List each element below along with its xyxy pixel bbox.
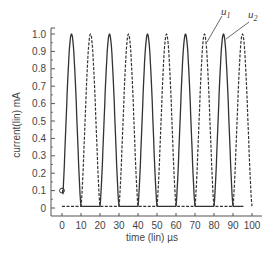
y-tick-label: 0.6 [32, 98, 46, 109]
x-tick-label: 0 [59, 220, 65, 231]
x-tick-label: 30 [113, 220, 125, 231]
x-tick-label: 60 [170, 220, 182, 231]
y-tick-label: 0.1 [32, 185, 46, 196]
x-tick-label: 70 [189, 220, 201, 231]
y-tick-label: 0.8 [32, 63, 46, 74]
u2-leader-line [226, 22, 249, 39]
x-tick-label: 90 [227, 220, 239, 231]
x-axis: 0102030405060708090100 [51, 213, 262, 231]
line-chart: 00.10.20.30.40.50.60.70.80.91.0 01020304… [0, 0, 277, 253]
x-tick-label: 40 [132, 220, 144, 231]
y-tick-label: 0.5 [32, 116, 46, 127]
x-tick-label: 10 [75, 220, 87, 231]
y-tick-label: 0 [40, 203, 46, 214]
plot-area [60, 34, 252, 206]
x-tick-label: 80 [208, 220, 220, 231]
series-u1-line [62, 34, 252, 206]
y-tick-label: 0.4 [32, 133, 46, 144]
y-tick-label: 0.2 [32, 168, 46, 179]
y-tick-label: 0.7 [32, 81, 46, 92]
y-axis-title: current(lin) mA [11, 92, 22, 158]
x-axis-title: time (lin) µs [126, 232, 178, 243]
x-tick-label: 100 [244, 220, 261, 231]
svg-text:u2: u2 [248, 8, 258, 23]
series-u2-line [62, 34, 243, 206]
x-tick-label: 20 [94, 220, 106, 231]
y-tick-label: 0.3 [32, 150, 46, 161]
u1-leader-line [207, 16, 222, 42]
series-label-u1: u1 [207, 5, 231, 42]
x-tick-label: 50 [151, 220, 163, 231]
y-axis: 00.10.20.30.40.50.60.70.80.91.0 [32, 28, 55, 216]
u2-subscript: 2 [254, 14, 258, 23]
y-tick-label: 0.9 [32, 46, 46, 57]
y-tick-label: 1.0 [32, 29, 46, 40]
u1-subscript: 1 [227, 11, 231, 20]
svg-text:u1: u1 [221, 5, 231, 20]
